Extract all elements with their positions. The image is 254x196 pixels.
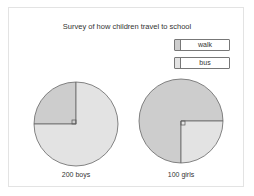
pie-label-boys: 200 boys <box>36 171 116 178</box>
pie-slice-boys-walk <box>34 82 76 124</box>
pie-label-girls: 100 girls <box>141 171 221 178</box>
pie-slice-girls-bus <box>181 121 223 163</box>
pie-charts <box>0 0 254 196</box>
